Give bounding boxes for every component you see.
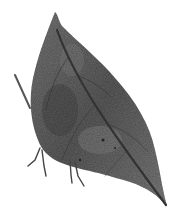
light-patch <box>78 126 122 154</box>
antenna <box>15 75 30 108</box>
dark-patch <box>42 84 78 136</box>
leg <box>42 150 46 176</box>
leaf-butterfly-illustration <box>0 0 182 219</box>
leg <box>28 148 40 166</box>
drawing-canvas <box>0 0 182 219</box>
